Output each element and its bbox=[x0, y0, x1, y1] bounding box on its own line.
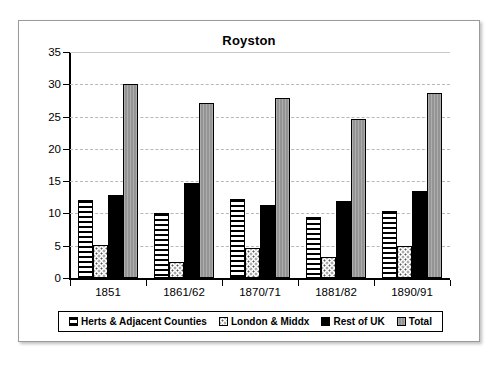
legend-label: Rest of UK bbox=[333, 316, 384, 327]
legend-label: Total bbox=[409, 316, 432, 327]
bar[interactable] bbox=[306, 217, 321, 278]
legend-label: London & Middx bbox=[231, 316, 309, 327]
bar-group bbox=[70, 52, 146, 278]
x-axis-tick bbox=[222, 280, 223, 286]
bar[interactable] bbox=[275, 98, 290, 278]
x-axis-label: 1881/82 bbox=[315, 286, 357, 298]
legend-swatch-icon bbox=[397, 317, 406, 326]
bar[interactable] bbox=[427, 93, 442, 278]
bar[interactable] bbox=[260, 205, 275, 278]
x-axis-tick bbox=[450, 280, 451, 286]
y-axis-label: 25 bbox=[19, 111, 61, 123]
y-axis-label: 5 bbox=[19, 240, 61, 252]
y-axis-label: 10 bbox=[19, 207, 61, 219]
bar[interactable] bbox=[245, 248, 260, 278]
legend-swatch-icon bbox=[321, 317, 330, 326]
legend-item[interactable]: Herts & Adjacent Counties bbox=[69, 316, 207, 327]
x-axis-tick bbox=[70, 280, 71, 286]
bar-group bbox=[222, 52, 298, 278]
legend-label: Herts & Adjacent Counties bbox=[81, 316, 207, 327]
x-axis-line bbox=[69, 278, 450, 280]
chart-legend: Herts & Adjacent CountiesLondon & MiddxR… bbox=[58, 311, 443, 332]
bar-group bbox=[374, 52, 450, 278]
bar[interactable] bbox=[169, 262, 184, 278]
plot-area bbox=[70, 52, 450, 278]
bar[interactable] bbox=[184, 183, 199, 278]
legend-swatch-icon bbox=[219, 317, 228, 326]
chart-title: Royston bbox=[19, 33, 479, 48]
legend-item[interactable]: Rest of UK bbox=[321, 316, 384, 327]
legend-item[interactable]: Total bbox=[397, 316, 432, 327]
bar-group bbox=[298, 52, 374, 278]
bar[interactable] bbox=[93, 245, 108, 278]
x-axis-tick bbox=[374, 280, 375, 286]
bar[interactable] bbox=[78, 200, 93, 278]
bar[interactable] bbox=[412, 191, 427, 278]
bar[interactable] bbox=[382, 211, 397, 278]
y-axis-tick bbox=[63, 52, 70, 53]
legend-item[interactable]: London & Middx bbox=[219, 316, 309, 327]
y-axis-label: 35 bbox=[19, 46, 61, 58]
y-axis-label: 0 bbox=[19, 272, 61, 284]
x-axis-label: 1870/71 bbox=[239, 286, 281, 298]
y-axis-label: 30 bbox=[19, 78, 61, 90]
y-axis-tick bbox=[63, 181, 70, 182]
y-axis-tick bbox=[63, 246, 70, 247]
x-axis-label: 1861/62 bbox=[163, 286, 205, 298]
bar[interactable] bbox=[351, 119, 366, 278]
y-axis-label: 15 bbox=[19, 175, 61, 187]
x-axis-label: 1890/91 bbox=[391, 286, 433, 298]
bar-group bbox=[146, 52, 222, 278]
y-axis-tick-labels: 05101520253035 bbox=[19, 21, 61, 341]
bar[interactable] bbox=[154, 213, 169, 278]
x-axis-category-labels: 18511861/621870/711881/821890/91 bbox=[70, 286, 450, 306]
bar[interactable] bbox=[230, 199, 245, 278]
bar[interactable] bbox=[123, 84, 138, 278]
bar[interactable] bbox=[108, 195, 123, 278]
y-axis-tick bbox=[63, 213, 70, 214]
y-axis-tick bbox=[63, 278, 70, 279]
chart-frame: Royston % Principal Providers 0510152025… bbox=[18, 20, 480, 342]
y-axis-tick bbox=[63, 117, 70, 118]
bar[interactable] bbox=[336, 201, 351, 278]
y-axis-tick bbox=[63, 84, 70, 85]
legend-swatch-icon bbox=[69, 317, 78, 326]
y-axis-tick bbox=[63, 149, 70, 150]
x-axis-tick bbox=[146, 280, 147, 286]
bar[interactable] bbox=[397, 246, 412, 278]
bar[interactable] bbox=[321, 257, 336, 278]
y-axis-label: 20 bbox=[19, 143, 61, 155]
bar[interactable] bbox=[199, 103, 214, 278]
x-axis-tick bbox=[298, 280, 299, 286]
x-axis-label: 1851 bbox=[95, 286, 121, 298]
